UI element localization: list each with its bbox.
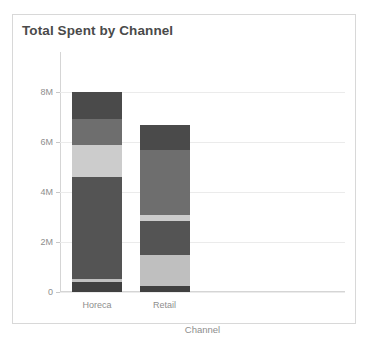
y-tick-mark [56, 292, 60, 293]
y-tick-label: 4M [40, 187, 53, 197]
bar-segment[interactable] [140, 286, 190, 292]
bar-segment[interactable] [140, 221, 190, 254]
gridline [60, 292, 345, 293]
y-tick-mark [56, 192, 60, 193]
bar-horeca[interactable] [72, 92, 122, 292]
y-tick-label: 6M [40, 137, 53, 147]
x-tick-label-retail: Retail [153, 300, 176, 310]
bar-retail[interactable] [140, 125, 190, 292]
bar-segment[interactable] [72, 92, 122, 119]
bar-segment[interactable] [140, 150, 190, 215]
bar-segment[interactable] [72, 119, 122, 146]
y-tick-label: 2M [40, 237, 53, 247]
bar-segment[interactable] [140, 255, 190, 287]
chart-title: Total Spent by Channel [22, 23, 173, 38]
y-tick-label: 0 [48, 287, 53, 297]
bar-segment[interactable] [140, 125, 190, 150]
y-axis-line [60, 52, 61, 292]
x-tick-label-horeca: Horeca [82, 300, 111, 310]
bar-segment[interactable] [72, 177, 122, 279]
y-tick-mark [56, 242, 60, 243]
plot-area: 8M6M4M2M0 HorecaRetail Channel [60, 52, 345, 292]
y-tick-mark [56, 92, 60, 93]
bar-segment[interactable] [72, 145, 122, 177]
y-tick-label: 8M [40, 87, 53, 97]
y-tick-mark [56, 142, 60, 143]
bar-segment[interactable] [72, 282, 122, 292]
x-axis-title: Channel [60, 324, 345, 335]
chart-card: Total Spent by Channel 8M6M4M2M0 HorecaR… [12, 14, 356, 324]
